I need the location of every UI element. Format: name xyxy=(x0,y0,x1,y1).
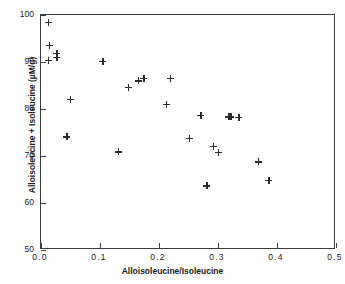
x-axis-tick xyxy=(41,243,42,248)
x-axis-tick xyxy=(100,243,101,248)
data-point xyxy=(53,50,60,57)
y-axis-tick-label: 50 xyxy=(8,244,34,254)
data-point xyxy=(225,113,232,120)
x-axis-tick-label: 0.3 xyxy=(209,252,224,262)
data-point xyxy=(67,96,74,103)
data-points-layer xyxy=(41,15,334,248)
data-point xyxy=(115,148,122,155)
data-point xyxy=(63,133,70,140)
data-point xyxy=(125,84,132,91)
x-axis-tick xyxy=(159,243,160,248)
y-axis-tick xyxy=(41,156,46,157)
data-point xyxy=(265,177,272,184)
x-axis-tick xyxy=(336,243,337,248)
y-axis-tick-label: 70 xyxy=(8,150,34,160)
y-axis-tick-label: 80 xyxy=(8,103,34,113)
x-axis-tick-label: 0.2 xyxy=(150,252,165,262)
y-axis-tick xyxy=(41,203,46,204)
x-axis-tick-label: 0.4 xyxy=(268,252,283,262)
y-axis-tick-label: 100 xyxy=(8,9,34,19)
data-point xyxy=(227,113,234,120)
x-axis-label: Alloisoleucine/Isoleucine xyxy=(0,266,345,276)
y-axis-tick xyxy=(41,62,46,63)
data-point xyxy=(203,182,210,189)
y-axis-tick xyxy=(41,250,46,251)
x-axis-tick-label: 0.1 xyxy=(91,252,106,262)
y-axis-tick-label: 90 xyxy=(8,56,34,66)
data-point xyxy=(46,42,53,49)
x-axis-tick-label: 0.5 xyxy=(327,252,342,262)
data-point xyxy=(45,19,52,26)
data-point xyxy=(197,112,204,119)
y-axis-tick xyxy=(41,15,46,16)
data-point xyxy=(99,58,106,65)
data-point xyxy=(163,101,170,108)
scatter-plot-figure: Alloisoleucine + Isoleucine (µM/g) 50607… xyxy=(0,0,345,284)
data-point xyxy=(255,158,262,165)
y-axis-tick xyxy=(41,109,46,110)
data-point xyxy=(186,135,193,142)
y-axis-label-container: Alloisoleucine + Isoleucine (µM/g) xyxy=(2,0,24,249)
data-point xyxy=(235,114,242,121)
data-point xyxy=(210,143,217,150)
data-point xyxy=(140,75,147,82)
x-axis-tick xyxy=(218,243,219,248)
data-point xyxy=(135,77,142,84)
y-axis-tick-label: 60 xyxy=(8,197,34,207)
x-axis-tick-label: 0.0 xyxy=(32,252,47,262)
plot-area xyxy=(40,14,335,249)
data-point xyxy=(53,54,60,61)
data-point xyxy=(215,149,222,156)
data-point xyxy=(167,75,174,82)
x-axis-tick xyxy=(277,243,278,248)
